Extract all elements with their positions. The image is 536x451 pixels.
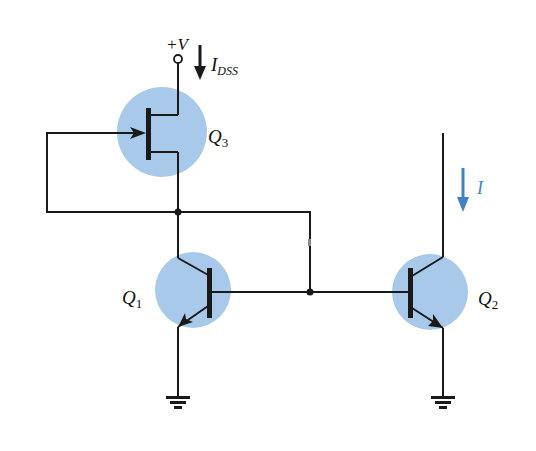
idss-arrow-icon	[194, 45, 206, 80]
q1-label: Q1	[122, 287, 142, 311]
circuit-diagram: +V IDSS Q3 Q1 Q2 I	[0, 0, 536, 451]
ground-icon-q1	[166, 396, 190, 409]
supply-label: +V	[166, 35, 190, 54]
q3-gate-bar	[146, 108, 151, 160]
ground-icon-q2	[431, 396, 455, 409]
wire-tick	[308, 239, 311, 246]
q2-label: Q2	[478, 288, 498, 312]
q1-base-bar	[207, 268, 212, 318]
q3-label: Q3	[208, 126, 228, 150]
wires	[47, 63, 443, 396]
output-current-label: I	[476, 178, 484, 198]
junction-dot-base-node	[307, 289, 314, 296]
output-current-arrow-icon	[457, 168, 469, 212]
junction-dot-source-node	[175, 209, 182, 216]
idss-label: IDSS	[210, 54, 238, 78]
supply-terminal	[174, 55, 182, 63]
q2-base-bar	[408, 268, 413, 318]
